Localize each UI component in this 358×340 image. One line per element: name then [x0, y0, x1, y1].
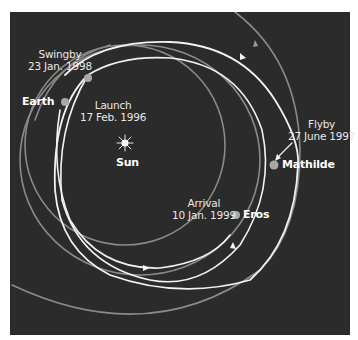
arrow-icon	[240, 53, 246, 60]
earth-label: Earth	[22, 96, 54, 108]
sun-label: Sun	[116, 157, 139, 169]
launch-title: Launch	[80, 99, 146, 111]
spacecraft-trajectory-3	[57, 110, 230, 268]
arrow-icon	[253, 40, 258, 47]
sun-icon	[117, 135, 133, 151]
swingby-label: Swingby 23 Jan. 1998	[28, 48, 92, 72]
flyby-pointer	[277, 143, 292, 158]
mathilde-marker	[270, 161, 279, 170]
launch-date: 17 Feb. 1996	[80, 111, 146, 123]
flyby-label: Flyby 27 June 1997	[288, 118, 355, 142]
swingby-title: Swingby	[28, 48, 92, 60]
arrow-icon	[230, 242, 236, 249]
arrival-date: 10 Jan. 1999	[172, 209, 236, 221]
flyby-date: 27 June 1997	[288, 130, 355, 142]
earth-marker	[61, 98, 69, 106]
arrow-icon	[143, 265, 150, 271]
arrival-title: Arrival	[172, 197, 236, 209]
arrival-label: Arrival 10 Jan. 1999	[172, 197, 236, 221]
flyby-title: Flyby	[288, 118, 355, 130]
launch-label: Launch 17 Feb. 1996	[80, 99, 146, 123]
eros-label: Eros	[243, 209, 269, 221]
mathilde-label: Mathilde	[282, 159, 335, 171]
swingby-date: 23 Jan. 1998	[28, 60, 92, 72]
swingby-marker	[84, 74, 92, 82]
